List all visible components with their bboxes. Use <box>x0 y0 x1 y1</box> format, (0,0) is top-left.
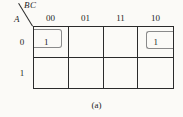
kmap-cell-r1c01 <box>69 58 104 89</box>
kmap-cell-r1c10 <box>138 58 173 89</box>
kmap-grid: 1 1 <box>33 26 174 89</box>
col-header-11: 11 <box>103 13 138 23</box>
col-header-10: 10 <box>138 13 173 23</box>
kmap-cell-r0c01 <box>69 27 104 58</box>
row-variable-label: A <box>14 15 20 24</box>
col-header-00: 00 <box>33 13 68 23</box>
kmap-cell-r1c11 <box>104 58 139 89</box>
kmap-cell-r0c10: 1 <box>138 27 173 58</box>
figure-caption: (a) <box>26 100 167 111</box>
row-header-1: 1 <box>15 68 29 78</box>
kmap-cell-r0c00: 1 <box>34 27 69 58</box>
column-variable-label: BC <box>24 1 37 10</box>
kmap-cell-r0c11 <box>104 27 139 58</box>
row-header-0: 0 <box>15 37 29 47</box>
kmap-cell-r1c00 <box>34 58 69 89</box>
karnaugh-map-figure: BC A 00 01 11 10 0 1 1 1 (a) <box>0 0 183 117</box>
col-header-01: 01 <box>68 13 103 23</box>
